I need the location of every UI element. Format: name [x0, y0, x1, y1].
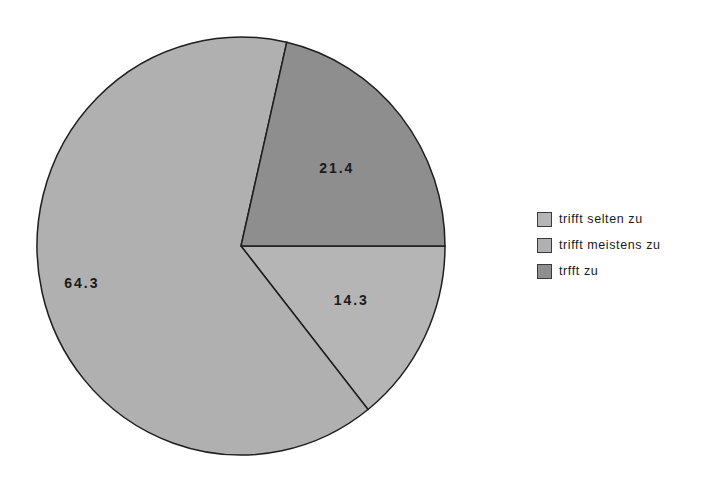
legend-item-zu: trfft zu [537, 258, 661, 284]
pie-slices [37, 37, 445, 455]
slice-value-label: 21.4 [319, 160, 354, 176]
slice-value-label: 64.3 [64, 275, 99, 291]
legend-label: trifft selten zu [559, 212, 643, 226]
legend-swatch [537, 238, 552, 253]
legend-swatch [537, 264, 552, 279]
legend-item-selten: trifft selten zu [537, 206, 661, 232]
legend-label: trfft zu [559, 264, 598, 278]
legend: trifft selten zu trifft meistens zu trff… [537, 206, 661, 284]
legend-swatch [537, 212, 552, 227]
legend-label: trifft meistens zu [559, 238, 661, 252]
slice-value-label: 14.3 [334, 292, 369, 308]
legend-item-meistens: trifft meistens zu [537, 232, 661, 258]
